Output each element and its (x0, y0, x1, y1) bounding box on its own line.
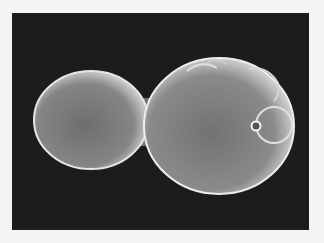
yeast-cell-image (12, 13, 309, 230)
bud-cell (34, 71, 148, 169)
bud-scar-pore (252, 122, 261, 131)
micrograph-frame (12, 13, 309, 230)
mother-cell (144, 58, 294, 194)
